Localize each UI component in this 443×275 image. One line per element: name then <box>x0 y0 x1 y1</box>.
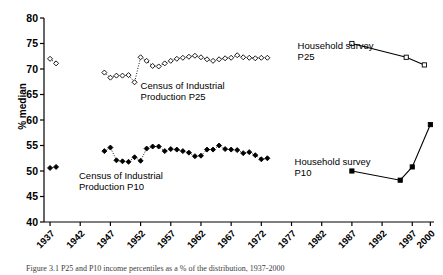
x-tick-label-group: 1997 <box>396 228 419 251</box>
data-point-marker <box>235 53 240 58</box>
x-tick-label: 1962 <box>185 228 208 251</box>
y-tick-label: 75 <box>26 37 38 49</box>
data-point-marker <box>241 55 246 60</box>
y-tick-label: 70 <box>26 63 38 75</box>
data-point-marker <box>205 57 210 62</box>
figure-caption: Figure 3.1 P25 and P10 income percentile… <box>26 264 284 273</box>
data-point-marker <box>247 150 252 155</box>
y-tick-label: 50 <box>26 165 38 177</box>
data-point-marker <box>174 56 179 61</box>
data-point-marker <box>217 143 222 148</box>
data-point-marker <box>150 63 155 68</box>
data-point-marker <box>54 164 59 169</box>
y-tick-label: 65 <box>26 88 38 100</box>
x-tick-label: 1992 <box>366 228 389 251</box>
chart-plot-area: 4045505560657075801937194219471952195719… <box>0 0 443 275</box>
series-annotation-line: Production P25 <box>141 91 206 102</box>
x-tick-label-group: 1942 <box>64 228 87 251</box>
series-annotation-line: Census of Industrial <box>141 80 225 91</box>
data-point-marker <box>241 151 246 156</box>
data-point-marker <box>198 55 203 60</box>
data-point-marker <box>410 165 414 169</box>
data-point-marker <box>114 158 119 163</box>
series-household-survey-p25: Household surveyP25 <box>298 40 427 67</box>
data-point-marker <box>253 56 258 61</box>
x-tick-label: 1942 <box>64 228 87 251</box>
data-point-marker <box>132 80 137 85</box>
data-point-marker <box>259 55 264 60</box>
data-point-marker <box>126 159 131 164</box>
y-tick-label: 80 <box>26 12 38 24</box>
series-annotation-label: Household surveyP10 <box>295 156 371 178</box>
data-point-marker <box>186 150 191 155</box>
x-tick-label-group: 1937 <box>34 228 57 251</box>
data-point-marker <box>108 145 113 150</box>
data-point-marker <box>404 55 408 59</box>
series-annotation-line: Household survey <box>295 156 371 167</box>
x-tick-label: 1997 <box>396 228 419 251</box>
data-point-marker <box>223 147 228 152</box>
data-point-marker <box>198 153 203 158</box>
data-point-marker <box>235 148 240 153</box>
data-point-marker <box>350 169 354 173</box>
data-point-marker <box>192 154 197 159</box>
data-point-marker <box>48 165 53 170</box>
x-tick-label-group: 1947 <box>94 228 117 251</box>
data-point-marker <box>428 122 432 126</box>
series-line <box>352 125 430 181</box>
data-point-marker <box>265 156 270 161</box>
data-point-marker <box>156 64 161 69</box>
data-point-marker <box>211 58 216 63</box>
data-point-marker <box>54 61 59 66</box>
series-annotation-line: Census of Industrial <box>79 170 163 181</box>
x-tick-label: 1967 <box>215 228 238 251</box>
data-point-marker <box>102 70 107 75</box>
data-point-marker <box>259 157 264 162</box>
x-tick-label: 1947 <box>94 228 117 251</box>
x-tick-label-group: 2000 <box>414 228 437 251</box>
data-point-marker <box>138 158 143 163</box>
y-tick-label: 45 <box>26 190 38 202</box>
data-point-marker <box>180 55 185 60</box>
x-tick-label-group: 1982 <box>305 228 328 251</box>
data-point-marker <box>422 63 426 67</box>
data-point-marker <box>120 73 125 78</box>
y-tick-label: 55 <box>26 139 38 151</box>
data-point-marker <box>186 54 191 59</box>
series-annotation-line: P25 <box>298 51 315 62</box>
series-annotation-label: Census of IndustrialProduction P25 <box>141 80 225 102</box>
data-point-marker <box>265 55 270 60</box>
series-census-of-industrial-production-p10: Census of IndustrialProduction P10 <box>48 143 270 192</box>
data-point-marker <box>223 56 228 61</box>
series-annotation-label: Census of IndustrialProduction P10 <box>79 170 163 192</box>
data-point-marker <box>132 155 137 160</box>
data-point-marker <box>150 144 155 149</box>
data-point-marker <box>398 178 402 182</box>
data-point-marker <box>217 57 222 62</box>
x-tick-label: 2000 <box>414 228 437 251</box>
x-tick-label: 1957 <box>155 228 178 251</box>
data-point-marker <box>192 53 197 58</box>
x-tick-label: 1977 <box>275 228 298 251</box>
x-tick-label-group: 1967 <box>215 228 238 251</box>
x-tick-label: 1937 <box>34 228 57 251</box>
y-tick-label: 40 <box>26 216 38 228</box>
data-point-marker <box>162 61 167 66</box>
series-annotation-line: Household survey <box>298 40 374 51</box>
series-annotation-label: Household surveyP25 <box>298 40 374 62</box>
series-household-survey-p10: Household surveyP10 <box>295 122 433 182</box>
x-tick-label-group: 1962 <box>185 228 208 251</box>
data-point-marker <box>253 153 258 158</box>
x-tick-label-group: 1952 <box>124 228 147 251</box>
x-tick-label: 1987 <box>336 228 359 251</box>
data-point-marker <box>144 146 149 151</box>
data-point-marker <box>102 149 107 154</box>
data-point-marker <box>247 55 252 60</box>
data-point-marker <box>138 55 143 60</box>
data-point-marker <box>180 149 185 154</box>
x-tick-label-group: 1987 <box>336 228 359 251</box>
data-point-marker <box>211 147 216 152</box>
x-tick-label: 1952 <box>124 228 147 251</box>
series-annotation-line: P10 <box>295 167 312 178</box>
data-point-marker <box>229 55 234 60</box>
